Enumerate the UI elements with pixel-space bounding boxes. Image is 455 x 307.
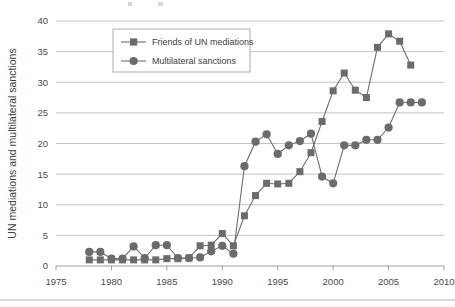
data-point-square	[319, 118, 326, 125]
data-point-circle	[152, 241, 160, 249]
y-tick-label: 35	[37, 46, 48, 57]
x-tick-label: 1985	[156, 276, 177, 287]
data-point-square	[407, 62, 414, 69]
data-point-circle	[418, 98, 426, 106]
data-point-square	[152, 256, 159, 263]
data-point-circle	[351, 141, 359, 149]
legend-marker-circle	[130, 57, 138, 65]
data-point-circle	[362, 136, 370, 144]
data-point-circle	[240, 162, 248, 170]
data-point-circle	[396, 98, 404, 106]
data-point-circle	[196, 253, 204, 261]
x-tick-label: 2005	[378, 276, 399, 287]
data-point-circle	[229, 250, 237, 258]
data-point-circle	[263, 130, 271, 138]
data-point-square	[219, 230, 226, 237]
data-point-square	[241, 212, 248, 219]
data-point-square	[230, 242, 237, 249]
y-tick-label: 25	[37, 107, 48, 118]
artifact-mark	[158, 2, 163, 6]
data-point-square	[130, 256, 137, 263]
y-tick-label: 40	[37, 15, 48, 26]
data-point-square	[352, 87, 359, 94]
x-tick-label: 1990	[212, 276, 233, 287]
data-point-square	[285, 180, 292, 187]
data-point-circle	[318, 172, 326, 180]
data-point-circle	[207, 247, 215, 255]
data-point-circle	[251, 138, 259, 146]
data-point-square	[274, 180, 281, 187]
data-point-circle	[118, 255, 126, 263]
x-axis-group: 19751980198519901995200020052010	[45, 266, 454, 287]
line-chart: 0510152025303540197519801985199019952000…	[0, 0, 455, 307]
artifact-mark	[128, 2, 132, 6]
x-tick-label: 1975	[45, 276, 66, 287]
data-point-circle	[185, 254, 193, 262]
y-tick-label: 0	[43, 260, 48, 271]
y-tick-label: 10	[37, 199, 48, 210]
data-point-square	[252, 192, 259, 199]
data-point-square	[86, 256, 93, 263]
data-point-circle	[307, 130, 315, 138]
chart-legend: Friends of UN mediationsMultilateral san…	[113, 29, 254, 72]
scan-artifact-top	[128, 2, 163, 6]
legend-label: Multilateral sanctions	[152, 56, 237, 66]
data-point-circle	[274, 150, 282, 158]
data-point-square	[307, 149, 314, 156]
x-tick-label: 1980	[101, 276, 122, 287]
x-tick-label: 1995	[267, 276, 288, 287]
legend-label: Friends of UN mediations	[152, 37, 254, 47]
data-point-square	[296, 168, 303, 175]
data-point-circle	[296, 137, 304, 145]
data-point-circle	[85, 248, 93, 256]
data-point-circle	[218, 242, 226, 250]
data-point-circle	[130, 242, 138, 250]
chart-container: 0510152025303540197519801985199019952000…	[0, 0, 455, 307]
data-point-circle	[373, 136, 381, 144]
data-point-square	[374, 44, 381, 51]
data-point-square	[163, 255, 170, 262]
data-point-square	[97, 256, 104, 263]
data-point-square	[197, 242, 204, 249]
y-axis-label: UN mediations and multilateral sanctions	[6, 48, 18, 238]
data-point-square	[263, 180, 270, 187]
data-point-circle	[285, 141, 293, 149]
x-tick-label: 2010	[433, 276, 454, 287]
data-point-square	[330, 87, 337, 94]
data-point-circle	[107, 255, 115, 263]
data-point-circle	[384, 123, 392, 131]
data-point-circle	[141, 254, 149, 262]
legend-marker-square	[130, 38, 137, 45]
y-tick-label: 30	[37, 77, 48, 88]
data-point-square	[396, 38, 403, 45]
data-point-square	[341, 70, 348, 77]
data-point-circle	[329, 179, 337, 187]
x-tick-label: 2000	[323, 276, 344, 287]
data-point-circle	[407, 98, 415, 106]
y-tick-label: 20	[37, 138, 48, 149]
y-tick-label: 5	[43, 230, 48, 241]
data-point-circle	[174, 254, 182, 262]
data-point-square	[385, 30, 392, 37]
data-point-circle	[340, 141, 348, 149]
data-point-circle	[96, 248, 104, 256]
data-point-circle	[163, 241, 171, 249]
series-2	[85, 98, 426, 262]
data-point-square	[363, 94, 370, 101]
y-tick-label: 15	[37, 169, 48, 180]
